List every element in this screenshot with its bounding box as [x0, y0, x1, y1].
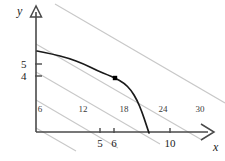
y-tick-label-5: 5 — [21, 59, 27, 70]
budget-isoline-30 — [55, 4, 225, 103]
x-axis-label: x — [213, 141, 218, 153]
axes-group — [31, 6, 215, 140]
isoline-label-30: 30 — [196, 105, 205, 114]
y-tick-label-4: 4 — [21, 71, 27, 82]
isoline-label-18: 18 — [120, 105, 129, 114]
budget-isolines-group — [36, 4, 225, 151]
isoline-label-12: 12 — [79, 105, 88, 114]
annotated-points-group — [113, 76, 117, 80]
x-tick-label-10: 10 — [165, 138, 176, 149]
x-tick-label-5: 5 — [97, 138, 103, 149]
budget-isoline-24 — [36, 44, 202, 140]
isoquant-figure: y x 54 5610 612182430 — [0, 0, 225, 161]
x-tick-label-6: 6 — [111, 138, 117, 149]
isoline-label-24: 24 — [159, 105, 168, 114]
isoline-label-6: 6 — [38, 105, 43, 114]
budget-isoline-12 — [36, 100, 118, 148]
budget-isoline-18 — [36, 72, 160, 144]
y-axis-label: y — [17, 5, 22, 17]
tangency-point — [113, 76, 117, 80]
constraint-curve — [37, 51, 149, 133]
axis-ticks-group — [35, 64, 170, 133]
